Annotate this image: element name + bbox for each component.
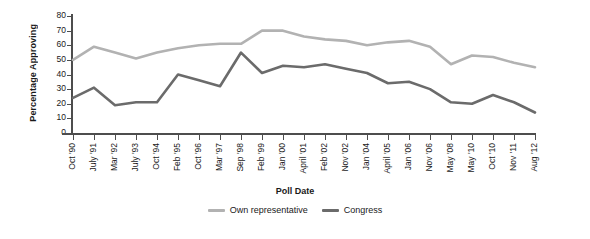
x-tick-label: Mar '97: [215, 143, 224, 171]
x-tick-mark: [409, 135, 410, 140]
x-tick-mark: [535, 135, 536, 140]
x-tick-mark: [199, 135, 200, 140]
x-tick-mark: [325, 135, 326, 140]
x-tick-label: Oct '94: [152, 143, 161, 170]
x-tick-mark: [283, 135, 284, 140]
x-tick-mark: [220, 135, 221, 140]
x-tick-mark: [262, 135, 263, 140]
y-axis-tick-labels: 01020304050607080: [42, 0, 66, 239]
x-tick-label: Feb '95: [173, 143, 182, 171]
series-lines: [73, 16, 535, 133]
x-tick-mark: [304, 135, 305, 140]
legend-label: Congress: [344, 206, 383, 215]
x-tick-mark: [241, 135, 242, 140]
x-tick-mark: [388, 135, 389, 140]
line-chart: Percentage Approving 01020304050607080 O…: [0, 0, 590, 239]
x-tick-mark: [157, 135, 158, 140]
legend-item[interactable]: Congress: [322, 206, 383, 215]
x-tick-label: July '91: [89, 143, 98, 172]
x-axis-title-label: Poll Date: [276, 186, 315, 196]
x-tick-label: July '93: [131, 143, 140, 172]
x-tick-mark: [136, 135, 137, 140]
plot-area: [73, 16, 535, 133]
x-tick-mark: [451, 135, 452, 140]
x-tick-label: Jan '00: [278, 143, 287, 170]
x-tick-mark: [346, 135, 347, 140]
y-tick-label: 40: [44, 70, 66, 79]
x-tick-label: Oct '96: [194, 143, 203, 170]
legend-swatch-icon: [322, 209, 339, 212]
x-tick-label: April '05: [383, 143, 392, 173]
x-tick-label: Aug '12: [530, 143, 539, 172]
x-tick-label: April '01: [299, 143, 308, 173]
x-tick-mark: [514, 135, 515, 140]
x-tick-label: Nov '02: [341, 143, 350, 172]
x-tick-label: Jan '06: [404, 143, 413, 170]
y-tick-label: 70: [44, 26, 66, 35]
x-tick-label: Sep '98: [236, 143, 245, 172]
x-tick-mark: [493, 135, 494, 140]
y-axis-title: Percentage Approving: [24, 12, 42, 134]
x-tick-label: May '08: [446, 143, 455, 173]
series-line-congress: [73, 53, 535, 113]
x-tick-mark: [472, 135, 473, 140]
x-tick-label: Nov '06: [425, 143, 434, 172]
legend-label: Own representative: [230, 206, 308, 215]
x-tick-mark: [94, 135, 95, 140]
y-tick-label: 60: [44, 40, 66, 49]
legend-item[interactable]: Own representative: [208, 206, 308, 215]
x-tick-label: May '10: [467, 143, 476, 173]
x-tick-label: Feb '99: [257, 143, 266, 171]
x-tick-mark: [73, 135, 74, 140]
x-tick-label: Feb '02: [320, 143, 329, 171]
y-tick-label: 20: [44, 99, 66, 108]
x-tick-mark: [367, 135, 368, 140]
series-line-own-representative: [73, 31, 535, 68]
x-axis-title: Poll Date: [0, 186, 590, 196]
x-tick-mark: [178, 135, 179, 140]
x-tick-label: Jan '04: [362, 143, 371, 170]
y-tick-label: 80: [44, 11, 66, 20]
y-tick-label: 10: [44, 113, 66, 122]
x-tick-mark: [430, 135, 431, 140]
x-tick-label: Oct '90: [68, 143, 77, 170]
legend-swatch-icon: [208, 209, 225, 212]
y-tick-label: 30: [44, 84, 66, 93]
x-axis-line: [62, 133, 536, 135]
x-tick-label: Mar '92: [110, 143, 119, 171]
x-tick-label: Nov '11: [509, 143, 518, 171]
x-tick-label: Oct '10: [488, 143, 497, 170]
x-tick-mark: [115, 135, 116, 140]
chart-legend: Own representativeCongress: [0, 206, 590, 215]
y-axis-title-label: Percentage Approving: [28, 24, 38, 122]
y-tick-label: 50: [44, 55, 66, 64]
